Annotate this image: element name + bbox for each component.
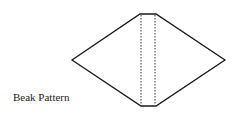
diagram-caption: Beak Pattern <box>13 91 70 103</box>
beak-outline <box>72 14 225 106</box>
